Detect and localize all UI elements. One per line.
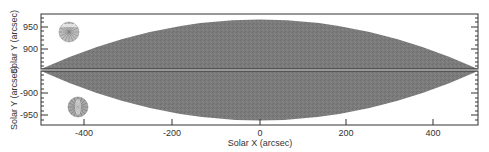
ytick-neg950: -950 <box>20 110 38 120</box>
bottom-panel: -900 -950 Solar Y (arcsec) <box>9 66 478 130</box>
xtick-200: 200 <box>338 128 353 138</box>
ytick-neg900: -900 <box>20 88 38 98</box>
ytick-900: 900 <box>23 44 38 54</box>
sun-disk-icon-south <box>68 97 88 117</box>
top-panel: 950 900 Solar Y (arcsec) <box>9 10 478 74</box>
xtick-neg200: -200 <box>163 128 181 138</box>
ytick-950: 950 <box>23 22 38 32</box>
top-ylabel: Solar Y (arcsec) <box>9 10 19 74</box>
solar-limb-figure: 950 900 Solar Y (arcsec) <box>0 0 489 152</box>
x-axis-label: Solar X (arcsec) <box>228 138 293 148</box>
north-limb-disk <box>41 20 478 70</box>
xtick-neg400: -400 <box>75 128 93 138</box>
sun-disk-icon-north <box>59 22 79 42</box>
xtick-0: 0 <box>257 128 262 138</box>
xtick-400: 400 <box>425 128 440 138</box>
bottom-ylabel: Solar Y (arcsec) <box>9 66 19 130</box>
south-limb-disk <box>41 71 478 121</box>
